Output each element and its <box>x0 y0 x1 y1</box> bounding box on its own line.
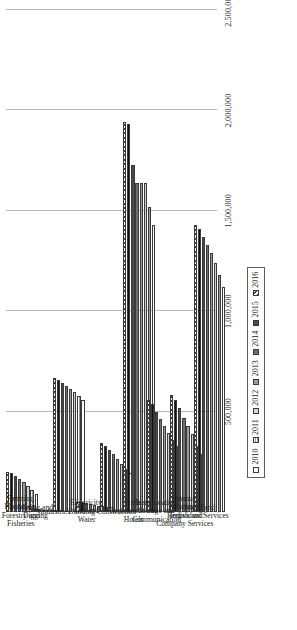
bar <box>210 253 213 512</box>
bar <box>198 229 201 512</box>
bar-row <box>42 10 45 512</box>
bar-row <box>57 10 60 512</box>
bar-row <box>104 10 107 512</box>
legend-item[interactable]: 2016 <box>252 272 260 297</box>
bar-row <box>194 10 197 512</box>
legend-label: 2014 <box>252 331 260 347</box>
bar <box>214 263 217 512</box>
bar-row <box>14 10 17 512</box>
bar-chart-figure: 500,0001,000,0001,500,0002,000,0002,500,… <box>0 0 297 630</box>
bar-row <box>84 10 87 512</box>
bar-row <box>202 10 205 512</box>
axis-tick-label: 1,500,000 <box>224 189 233 233</box>
bar-row <box>127 10 130 512</box>
legend-label: 2013 <box>252 360 260 376</box>
bar-row <box>116 10 119 512</box>
bar-group <box>6 10 29 512</box>
bar-row <box>89 10 92 512</box>
legend-label: 2016 <box>252 272 260 288</box>
bar-row <box>214 10 217 512</box>
bar <box>57 380 60 512</box>
legend-label: 2011 <box>252 419 260 435</box>
legend-swatch <box>253 379 259 385</box>
bar <box>206 245 209 512</box>
bar-row <box>108 10 111 512</box>
bar-row <box>80 10 83 512</box>
bar-row <box>34 10 37 512</box>
legend-item[interactable]: 2015 <box>252 301 260 326</box>
legend-item[interactable]: 2012 <box>252 390 260 415</box>
axis-tick-label: 2,500,000 <box>224 0 233 32</box>
bar-row <box>22 10 25 512</box>
bar <box>53 378 56 512</box>
bar-row <box>178 10 181 512</box>
bar-row <box>147 10 150 512</box>
legend-swatch <box>253 349 259 355</box>
bar <box>140 183 143 512</box>
bar <box>69 389 72 512</box>
bar-row <box>38 10 41 512</box>
bar-row <box>198 10 201 512</box>
axis-tick-label: 500,000 <box>224 390 233 434</box>
bar-row <box>29 10 32 512</box>
bar-row <box>151 10 154 512</box>
bar-row <box>159 10 162 512</box>
bar-row <box>53 10 56 512</box>
legend-item[interactable]: 2013 <box>252 360 260 385</box>
bar-group <box>123 10 146 512</box>
legend-item[interactable]: 2010 <box>252 449 260 474</box>
bar-row <box>100 10 103 512</box>
bar-row <box>10 10 13 512</box>
legend-swatch <box>253 467 259 473</box>
legend-label: 2015 <box>252 301 260 317</box>
bar-row <box>140 10 143 512</box>
bar-group <box>100 10 123 512</box>
legend-item[interactable]: 2014 <box>252 331 260 356</box>
bar <box>218 275 221 512</box>
bar-row <box>170 10 173 512</box>
bar-row <box>135 10 138 512</box>
bar-group <box>194 10 217 512</box>
bar-row <box>18 10 21 512</box>
bar-group <box>170 10 193 512</box>
bar-row <box>182 10 185 512</box>
bar-group <box>147 10 170 512</box>
bar <box>135 183 138 512</box>
bar-row <box>210 10 213 512</box>
bar <box>61 384 64 513</box>
bar <box>127 124 130 512</box>
bar-group <box>76 10 99 512</box>
plot-area <box>6 10 217 512</box>
bar-row <box>61 10 64 512</box>
bar <box>123 122 126 512</box>
legend-swatch <box>253 290 259 296</box>
legend-item[interactable]: 2011 <box>252 419 260 443</box>
bar-group <box>53 10 76 512</box>
bar-row <box>155 10 158 512</box>
axis-tick-label: 1,000,000 <box>224 289 233 333</box>
rotated-figure-container: 500,0001,000,0001,500,0002,000,0002,500,… <box>0 0 297 630</box>
bar-row <box>206 10 209 512</box>
legend-label: 2010 <box>252 449 260 465</box>
bar <box>202 237 205 512</box>
bar-row <box>46 10 49 512</box>
legend-swatch <box>253 320 259 326</box>
category-label: Social and Individual Services <box>161 504 239 521</box>
bar-row <box>186 10 189 512</box>
bar-row <box>65 10 68 512</box>
chart-legend: 2010201120122013201420152016 <box>247 267 265 478</box>
bar-row <box>218 10 221 512</box>
bar <box>131 165 134 512</box>
bar-row <box>131 10 134 512</box>
bar-row <box>112 10 115 512</box>
legend-swatch <box>253 408 259 414</box>
legend-swatch <box>253 438 259 444</box>
bar-row <box>174 10 177 512</box>
bar-row <box>6 10 9 512</box>
bar-row <box>123 10 126 512</box>
axis-tick-label: 2,000,000 <box>224 88 233 132</box>
bar <box>65 387 68 513</box>
bar-row <box>222 10 225 512</box>
bar-group <box>29 10 52 512</box>
bar-row <box>76 10 79 512</box>
